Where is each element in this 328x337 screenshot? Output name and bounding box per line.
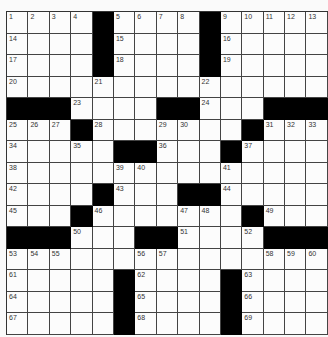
grid-cell[interactable] — [264, 292, 285, 314]
grid-cell[interactable] — [157, 292, 178, 314]
grid-cell[interactable]: 2 — [28, 12, 49, 34]
grid-cell[interactable] — [157, 163, 178, 185]
grid-cell[interactable] — [71, 313, 92, 335]
grid-cell[interactable] — [28, 141, 49, 163]
grid-cell[interactable] — [200, 141, 221, 163]
grid-cell[interactable] — [264, 163, 285, 185]
grid-cell[interactable] — [178, 77, 199, 99]
grid-cell[interactable] — [28, 77, 49, 99]
grid-cell[interactable]: 64 — [7, 292, 28, 314]
grid-cell[interactable] — [178, 249, 199, 271]
grid-cell[interactable] — [28, 206, 49, 228]
grid-cell[interactable] — [264, 34, 285, 56]
grid-cell[interactable] — [71, 163, 92, 185]
grid-cell[interactable] — [221, 249, 242, 271]
grid-cell[interactable]: 69 — [242, 313, 263, 335]
grid-cell[interactable] — [306, 77, 327, 99]
grid-cell[interactable] — [221, 206, 242, 228]
grid-cell[interactable] — [114, 206, 135, 228]
grid-cell[interactable]: 10 — [242, 12, 263, 34]
grid-cell[interactable]: 57 — [157, 249, 178, 271]
grid-cell[interactable]: 36 — [157, 141, 178, 163]
grid-cell[interactable] — [114, 227, 135, 249]
grid-cell[interactable] — [50, 55, 71, 77]
grid-cell[interactable] — [93, 313, 114, 335]
grid-cell[interactable] — [242, 34, 263, 56]
grid-cell[interactable] — [135, 34, 156, 56]
grid-cell[interactable]: 20 — [7, 77, 28, 99]
grid-cell[interactable] — [306, 141, 327, 163]
grid-cell[interactable] — [306, 34, 327, 56]
grid-cell[interactable]: 62 — [135, 270, 156, 292]
grid-cell[interactable] — [71, 270, 92, 292]
grid-cell[interactable]: 53 — [7, 249, 28, 271]
grid-cell[interactable]: 44 — [221, 184, 242, 206]
grid-cell[interactable]: 16 — [221, 34, 242, 56]
grid-cell[interactable] — [135, 184, 156, 206]
grid-cell[interactable] — [71, 184, 92, 206]
grid-cell[interactable] — [157, 184, 178, 206]
grid-cell[interactable]: 13 — [306, 12, 327, 34]
grid-cell[interactable]: 30 — [178, 120, 199, 142]
grid-cell[interactable] — [50, 292, 71, 314]
grid-cell[interactable] — [306, 292, 327, 314]
grid-cell[interactable] — [71, 77, 92, 99]
grid-cell[interactable] — [157, 55, 178, 77]
grid-cell[interactable] — [306, 270, 327, 292]
grid-cell[interactable] — [50, 313, 71, 335]
grid-cell[interactable] — [28, 55, 49, 77]
grid-cell[interactable]: 51 — [178, 227, 199, 249]
grid-cell[interactable] — [135, 120, 156, 142]
grid-cell[interactable]: 29 — [157, 120, 178, 142]
grid-cell[interactable]: 66 — [242, 292, 263, 314]
grid-cell[interactable] — [157, 77, 178, 99]
grid-cell[interactable] — [242, 77, 263, 99]
grid-cell[interactable]: 45 — [7, 206, 28, 228]
grid-cell[interactable] — [50, 141, 71, 163]
grid-cell[interactable]: 19 — [221, 55, 242, 77]
grid-cell[interactable] — [242, 184, 263, 206]
grid-cell[interactable] — [135, 98, 156, 120]
grid-cell[interactable]: 59 — [285, 249, 306, 271]
grid-cell[interactable] — [178, 34, 199, 56]
grid-cell[interactable]: 37 — [242, 141, 263, 163]
grid-cell[interactable] — [28, 163, 49, 185]
grid-cell[interactable]: 9 — [221, 12, 242, 34]
grid-cell[interactable] — [285, 270, 306, 292]
grid-cell[interactable]: 15 — [114, 34, 135, 56]
grid-cell[interactable] — [264, 184, 285, 206]
grid-cell[interactable] — [221, 120, 242, 142]
grid-cell[interactable] — [264, 77, 285, 99]
grid-cell[interactable] — [114, 249, 135, 271]
grid-cell[interactable] — [285, 141, 306, 163]
grid-cell[interactable]: 49 — [264, 206, 285, 228]
grid-cell[interactable] — [135, 77, 156, 99]
grid-cell[interactable] — [135, 206, 156, 228]
grid-cell[interactable] — [285, 206, 306, 228]
grid-cell[interactable] — [157, 313, 178, 335]
grid-cell[interactable]: 55 — [50, 249, 71, 271]
grid-cell[interactable] — [285, 292, 306, 314]
grid-cell[interactable] — [93, 227, 114, 249]
grid-cell[interactable] — [285, 77, 306, 99]
grid-cell[interactable]: 7 — [157, 12, 178, 34]
grid-cell[interactable]: 21 — [93, 77, 114, 99]
grid-cell[interactable]: 8 — [178, 12, 199, 34]
grid-cell[interactable] — [285, 55, 306, 77]
grid-cell[interactable]: 47 — [178, 206, 199, 228]
grid-cell[interactable]: 33 — [306, 120, 327, 142]
grid-cell[interactable] — [221, 77, 242, 99]
grid-cell[interactable] — [157, 34, 178, 56]
grid-cell[interactable] — [50, 206, 71, 228]
grid-cell[interactable]: 17 — [7, 55, 28, 77]
grid-cell[interactable] — [178, 141, 199, 163]
grid-cell[interactable]: 11 — [264, 12, 285, 34]
grid-cell[interactable] — [50, 270, 71, 292]
grid-cell[interactable] — [306, 313, 327, 335]
grid-cell[interactable]: 6 — [135, 12, 156, 34]
grid-cell[interactable] — [178, 55, 199, 77]
grid-cell[interactable] — [221, 227, 242, 249]
grid-cell[interactable] — [93, 98, 114, 120]
grid-cell[interactable] — [178, 270, 199, 292]
grid-cell[interactable]: 46 — [93, 206, 114, 228]
